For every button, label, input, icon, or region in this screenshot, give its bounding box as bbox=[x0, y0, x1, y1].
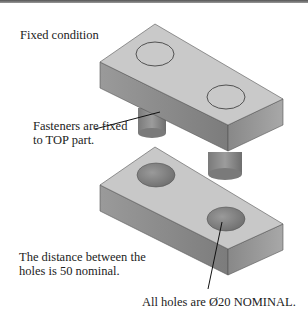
fastener-2 bbox=[208, 152, 242, 180]
figure-title: Fixed condition bbox=[20, 28, 99, 42]
hole-1 bbox=[137, 163, 175, 187]
callout-holes: All holes are Ø20 NOMINAL. bbox=[142, 295, 296, 309]
top-part bbox=[100, 24, 283, 151]
callout-fasteners-line1: Fasteners are fixed bbox=[33, 119, 127, 133]
callout-fasteners-line2: to TOP part. bbox=[33, 133, 94, 147]
callout-distance-line1: The distance between the bbox=[19, 250, 146, 264]
hole-2 bbox=[207, 207, 245, 231]
callout-distance-line2: holes is 50 nominal. bbox=[19, 264, 120, 278]
